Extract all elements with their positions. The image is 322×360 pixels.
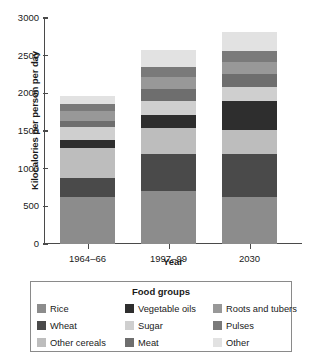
- legend-item-label: Sugar: [138, 321, 163, 331]
- segment-meat: [141, 89, 196, 101]
- segment-pulses: [222, 51, 277, 62]
- segment-vegetable-oils: [141, 115, 196, 129]
- bar-1: [60, 96, 115, 244]
- legend-item[interactable]: Meat: [125, 338, 213, 348]
- y-tick-label: 500: [5, 201, 39, 210]
- y-tick-label: 0: [5, 239, 39, 248]
- segment-vegetable-oils: [222, 101, 277, 130]
- x-tick: [88, 244, 89, 249]
- legend-item[interactable]: Pulses: [213, 321, 297, 331]
- segment-vegetable-oils: [60, 140, 115, 148]
- plot-area: Kilocalories per person per day 05001000…: [0, 0, 322, 268]
- legend-item[interactable]: Sugar: [125, 321, 213, 331]
- legend-item[interactable]: Vegetable oils: [125, 304, 213, 314]
- y-tick-label: 2000: [5, 88, 39, 97]
- x-tick: [250, 244, 251, 249]
- y-tick: [43, 93, 48, 94]
- legend-swatch-icon: [125, 304, 134, 313]
- segment-roots-and-tubers: [222, 62, 277, 74]
- legend-swatch-icon: [37, 338, 46, 347]
- segment-roots-and-tubers: [60, 111, 115, 121]
- y-tick-label: 2500: [5, 51, 39, 60]
- segment-other-cereals: [222, 130, 277, 154]
- segment-sugar: [141, 101, 196, 115]
- legend-swatch-icon: [213, 338, 222, 347]
- bar-2: [141, 50, 196, 244]
- legend-item[interactable]: Rice: [37, 304, 125, 314]
- y-tick: [43, 168, 48, 169]
- y-tick: [43, 55, 48, 56]
- legend-item[interactable]: Other cereals: [37, 338, 125, 348]
- segment-other: [141, 50, 196, 67]
- segment-pulses: [60, 104, 115, 111]
- y-tick-label: 3000: [5, 13, 39, 22]
- y-tick: [43, 130, 48, 131]
- legend-item-label: Vegetable oils: [138, 304, 196, 314]
- y-tick: [43, 206, 48, 207]
- legend-item[interactable]: Roots and tubers: [213, 304, 297, 314]
- segment-roots-and-tubers: [141, 77, 196, 89]
- x-axis-title: Year: [44, 256, 302, 267]
- segment-rice: [60, 197, 115, 244]
- legend-swatch-icon: [213, 304, 222, 313]
- segment-rice: [222, 197, 277, 244]
- segment-sugar: [60, 127, 115, 141]
- segment-rice: [141, 191, 196, 244]
- legend-item[interactable]: Other: [213, 338, 297, 348]
- legend-item-label: Rice: [50, 304, 69, 314]
- y-tick-label: 1000: [5, 164, 39, 173]
- legend-swatch-icon: [37, 321, 46, 330]
- legend-item[interactable]: Wheat: [37, 321, 125, 331]
- bar-3: [222, 32, 277, 244]
- legend-items: RiceVegetable oilsRoots and tubersWheatS…: [31, 300, 291, 351]
- x-tick: [169, 244, 170, 249]
- segment-other-cereals: [60, 148, 115, 179]
- segment-other: [60, 96, 115, 104]
- y-tick: [43, 243, 48, 244]
- legend-swatch-icon: [125, 321, 134, 330]
- segment-other: [222, 32, 277, 51]
- segment-other-cereals: [141, 128, 196, 154]
- legend: Food groups RiceVegetable oilsRoots and …: [30, 281, 292, 352]
- y-tick-label: 1500: [5, 126, 39, 135]
- legend-swatch-icon: [125, 338, 134, 347]
- segment-wheat: [141, 154, 196, 191]
- legend-item-label: Other: [226, 338, 249, 348]
- segment-meat: [222, 74, 277, 87]
- legend-swatch-icon: [37, 304, 46, 313]
- legend-title: Food groups: [31, 286, 291, 297]
- segment-sugar: [222, 87, 277, 102]
- legend-swatch-icon: [213, 321, 222, 330]
- legend-item-label: Pulses: [226, 321, 254, 331]
- legend-item-label: Meat: [138, 338, 159, 348]
- legend-item-label: Roots and tubers: [226, 304, 297, 314]
- legend-item-label: Wheat: [50, 321, 77, 331]
- segment-pulses: [141, 67, 196, 77]
- chart-root: Kilocalories per person per day 05001000…: [0, 0, 322, 360]
- segment-wheat: [60, 178, 115, 197]
- segment-wheat: [222, 154, 277, 197]
- legend-item-label: Other cereals: [50, 338, 106, 348]
- axes: 050010001500200025003000 1964–661997–992…: [44, 18, 302, 244]
- y-tick: [43, 17, 48, 18]
